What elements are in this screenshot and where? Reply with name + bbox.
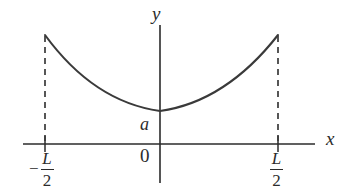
catenary-curve xyxy=(45,35,278,111)
fraction-denominator: 2 xyxy=(272,171,281,189)
fraction-numerator: L xyxy=(41,150,52,168)
left-endpoint-label: − L 2 xyxy=(29,150,54,189)
fraction-bar xyxy=(41,169,54,170)
y-axis-label: y xyxy=(152,4,160,23)
fraction-stack: L 2 xyxy=(41,150,54,189)
origin-label: 0 xyxy=(140,146,150,165)
catenary-figure: y x a 0 − L 2 L 2 xyxy=(0,0,358,190)
sag-height-label: a xyxy=(140,115,149,133)
x-axis-label: x xyxy=(326,129,334,148)
minus-sign-icon: − xyxy=(29,159,41,181)
figure-canvas xyxy=(0,0,358,190)
fraction-denominator: 2 xyxy=(43,171,52,189)
right-endpoint-label: L 2 xyxy=(270,150,283,189)
fraction-bar xyxy=(270,169,283,170)
fraction-numerator: L xyxy=(271,150,282,168)
fraction-stack: L 2 xyxy=(270,150,283,189)
